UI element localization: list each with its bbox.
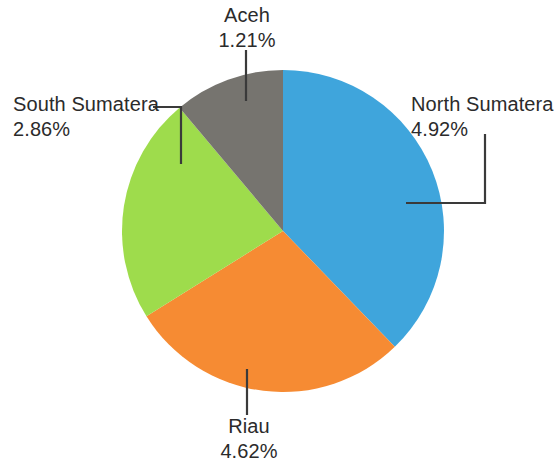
pie-label-north-sumatera-value: 4.92% <box>411 117 554 142</box>
pie-label-aceh: Aceh 1.21% <box>200 3 294 53</box>
pie-label-north-sumatera: North Sumatera 4.92% <box>411 92 554 142</box>
pie-label-aceh-name: Aceh <box>200 3 294 28</box>
pie-label-riau: Riau 4.62% <box>205 414 293 464</box>
pie-label-riau-name: Riau <box>205 414 293 439</box>
pie-chart-figure: Aceh 1.21% North Sumatera 4.92% South Su… <box>0 0 555 468</box>
pie-label-riau-value: 4.62% <box>205 439 293 464</box>
pie-chart-svg <box>0 0 555 468</box>
pie-label-south-sumatera-value: 2.86% <box>13 117 159 142</box>
pie-label-south-sumatera: South Sumatera 2.86% <box>13 92 159 142</box>
pie-label-south-sumatera-name: South Sumatera <box>13 92 159 117</box>
pie-label-aceh-value: 1.21% <box>200 28 294 53</box>
pie-slices <box>122 70 444 392</box>
pie-label-north-sumatera-name: North Sumatera <box>411 92 554 117</box>
